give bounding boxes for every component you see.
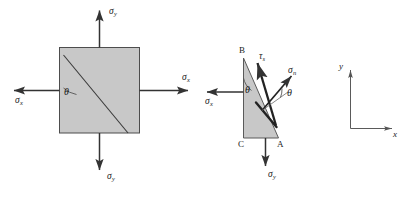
square-element-body (60, 48, 140, 134)
sigma-subscript: x (210, 100, 213, 107)
wedge-theta-label: θ (245, 85, 250, 95)
wedge-vertex-a-label: A (277, 140, 284, 149)
square-theta-label: θ (64, 87, 69, 97)
y-axis-label: y (339, 62, 343, 71)
wedge-vertex-b-label: B (239, 46, 245, 55)
sigma-glyph: σ (288, 65, 293, 75)
sigma-glyph: σ (205, 96, 210, 106)
sigma-glyph: σ (15, 95, 20, 105)
sigma-subscript: x (20, 99, 23, 106)
square-sigma-y-bottom-label: σy (107, 172, 115, 182)
square-sigma-x-right-label: σx (182, 73, 190, 83)
wedge-sigma-y-label: σy (268, 170, 276, 180)
sigma-glyph: σ (109, 6, 114, 16)
wedge-normal-theta-label: θ (287, 88, 292, 98)
square-element-group (14, 11, 188, 171)
sigma-glyph: σ (182, 72, 187, 82)
wedge-tau-s-label: τs (259, 52, 265, 62)
wedge-element-group (207, 58, 292, 166)
sigma-glyph: σ (107, 171, 112, 181)
sigma-subscript: y (114, 10, 117, 17)
reference-axes-group (351, 70, 393, 129)
wedge-vertex-c-label: C (238, 140, 244, 149)
tau-glyph: τ (259, 51, 262, 61)
tau-subscript: s (263, 55, 266, 62)
sigma-glyph: σ (268, 169, 273, 179)
sigma-subscript: y (112, 175, 115, 182)
wedge-sigma-x-label: σx (205, 97, 213, 107)
sigma-subscript: y (273, 173, 276, 180)
sigma-subscript: x (187, 76, 190, 83)
square-sigma-y-top-label: σy (109, 7, 117, 17)
stress-diagram-figure: σy σy σx σx θ B C A σx σy σn τs θ θ y x (0, 0, 416, 197)
square-sigma-x-left-label: σx (15, 96, 23, 106)
sigma-subscript: n (293, 69, 296, 76)
wedge-sigma-n-label: σn (288, 66, 296, 76)
x-axis-label: x (393, 130, 397, 139)
